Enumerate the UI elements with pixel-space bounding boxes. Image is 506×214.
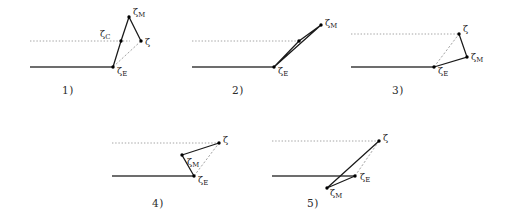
dashed-connector [355,141,379,176]
point-label-zeta-E: ζE [117,65,127,78]
point-label-zeta-M: ζM [133,6,145,19]
panel-3: ζEζζM [351,23,483,78]
point-label-zeta: ζ [463,23,468,34]
figure-root: ζEζCζMζζEζMζEζζMζEζMζζMζEζ 1) 2) 3) 4) 5… [0,0,506,214]
panel-caption-3: 3) [392,84,404,96]
point-marker-zeta-M [127,15,130,18]
point-label-zeta: ζ [223,134,228,145]
point-marker-zeta-C [297,39,300,42]
point-marker-zeta-M [319,23,322,26]
point-marker-zeta [377,139,380,142]
point-label-zeta-M: ζM [330,187,342,200]
point-label-zeta-C: ζC [100,28,110,41]
panel-2: ζEζM [192,17,337,78]
solid-polyline [274,25,321,67]
diagram-canvas: ζEζCζMζζEζMζEζζMζEζMζζMζEζ [0,0,506,214]
point-marker-zeta-M [180,153,183,156]
panel-caption-5: 5) [307,197,319,209]
point-label-zeta-M: ζM [325,17,337,30]
point-label-zeta: ζ [383,132,388,143]
point-marker-zeta-E [272,65,275,68]
point-marker-zeta-E [192,174,195,177]
panel-5: ζMζEζ [272,132,388,200]
dashed-connector [434,34,459,67]
panel-caption-2: 2) [232,84,244,96]
panel-1: ζEζCζMζ [30,6,150,78]
point-label-zeta-E: ζE [360,171,370,184]
panel-4: ζEζMζ [112,134,228,187]
point-label-zeta: ζ [145,36,150,47]
solid-polyline [434,34,467,67]
point-label-zeta-M: ζM [471,51,483,64]
solid-polyline [113,17,141,67]
point-marker-zeta-E [432,65,435,68]
solid-polyline [327,141,379,188]
panel-caption-1: 1) [62,84,74,96]
point-marker-zeta [217,141,220,144]
point-marker-zeta-M [325,186,328,189]
point-marker-zeta [457,32,460,35]
dashed-connector [194,143,219,176]
panel-caption-4: 4) [152,197,164,209]
point-marker-zeta-M [465,55,468,58]
point-marker-zeta-C [119,39,122,42]
point-marker-zeta [139,39,142,42]
point-marker-zeta-E [353,174,356,177]
point-label-zeta-E: ζE [198,174,208,187]
point-label-zeta-E: ζE [438,65,448,78]
point-marker-zeta-E [111,65,114,68]
point-label-zeta-E: ζE [278,65,288,78]
